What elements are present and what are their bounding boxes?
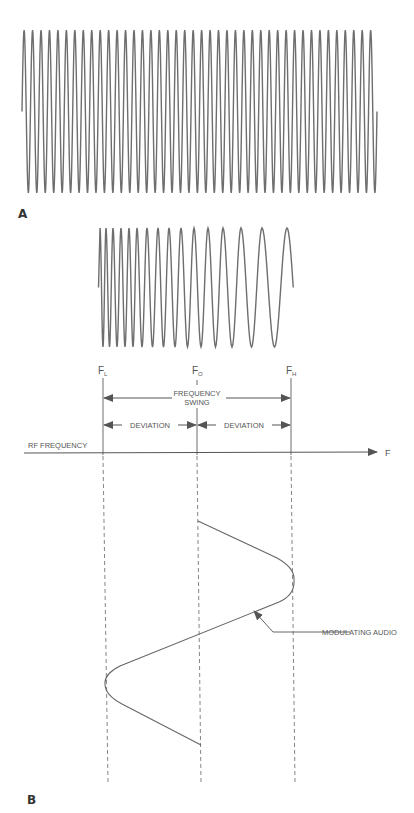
svg-text:F: F xyxy=(385,448,391,458)
svg-text:SWING: SWING xyxy=(184,398,210,407)
marker-f-center: FO xyxy=(192,365,203,377)
svg-text:RF FREQUENCY: RF FREQUENCY xyxy=(28,441,87,450)
f-low-guide xyxy=(103,456,108,783)
frequency-swing: FREQUENCY SWING xyxy=(104,389,290,407)
svg-text:DEVIATION: DEVIATION xyxy=(130,421,170,430)
panel-label-b: B xyxy=(27,793,36,807)
fm-waveform-b xyxy=(99,228,294,347)
f-high-guide xyxy=(291,456,295,783)
carrier-waveform-a xyxy=(22,30,377,193)
svg-text:FREQUENCY: FREQUENCY xyxy=(173,389,220,398)
marker-f-low: FL xyxy=(98,365,108,377)
rf-frequency-axis: RF FREQUENCY F xyxy=(24,441,391,458)
deviation-left: DEVIATION xyxy=(104,421,196,430)
svg-text:FO: FO xyxy=(192,365,203,377)
svg-text:DEVIATION: DEVIATION xyxy=(224,421,264,430)
f-center-guide xyxy=(197,456,201,783)
svg-text:FH: FH xyxy=(286,365,296,377)
marker-f-high: FH xyxy=(286,365,296,377)
deviation-right: DEVIATION xyxy=(198,421,290,430)
svg-text:FL: FL xyxy=(98,365,108,377)
modulating-audio-callout: MODULATING AUDIO xyxy=(254,611,397,637)
panel-label-a: A xyxy=(18,207,28,221)
svg-text:MODULATING AUDIO: MODULATING AUDIO xyxy=(322,628,397,637)
fm-deviation-diagram: A FL FO FH FREQUENCY SWING DEVIATION DEV… xyxy=(0,0,414,813)
